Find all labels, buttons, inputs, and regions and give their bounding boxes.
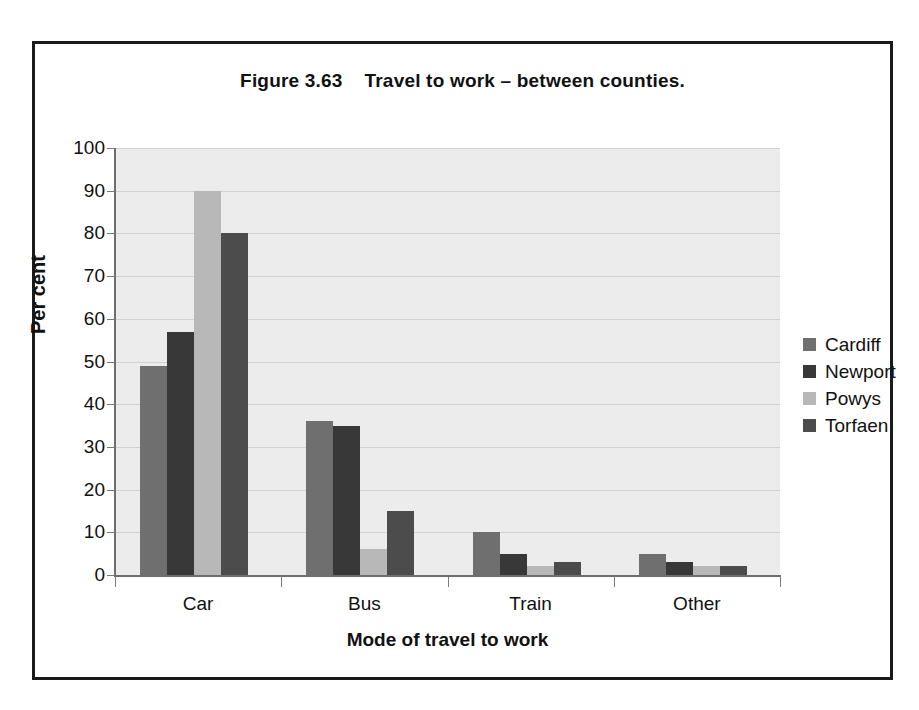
y-axis-tick [107,532,115,533]
chart-legend: CardiffNewportPowysTorfaen [803,331,896,439]
legend-label: Powys [825,388,881,410]
bar [140,366,167,575]
y-axis-tick [107,191,115,192]
bar [666,562,693,575]
gridline [115,148,780,149]
bar [167,332,194,575]
x-axis-category-label: Bus [348,593,381,615]
x-axis-category-label: Other [673,593,721,615]
chart-title: Figure 3.63 Travel to work – between cou… [35,70,890,92]
y-axis-tick [107,404,115,405]
x-axis-category-label: Train [509,593,552,615]
legend-swatch-icon [803,365,816,378]
y-axis-tick-label: 60 [35,308,105,330]
bar [333,426,360,575]
bar [639,554,666,575]
bar [693,566,720,575]
y-axis-tick [107,148,115,149]
legend-item-cardiff[interactable]: Cardiff [803,331,896,358]
plot-area [115,148,780,575]
x-axis-title: Mode of travel to work [115,629,780,651]
y-axis-tick [107,233,115,234]
y-axis-tick-label: 30 [35,436,105,458]
y-axis-tick [107,319,115,320]
x-axis-category-label: Car [183,593,214,615]
legend-item-powys[interactable]: Powys [803,385,896,412]
legend-label: Torfaen [825,415,888,437]
bar [194,191,221,575]
legend-swatch-icon [803,419,816,432]
bar [360,549,387,575]
bar [500,554,527,575]
bar [387,511,414,575]
y-axis-tick-label: 80 [35,222,105,244]
legend-swatch-icon [803,392,816,405]
bar [720,566,747,575]
y-axis-tick [107,575,115,576]
legend-label: Cardiff [825,334,881,356]
bar [473,532,500,575]
y-axis-tick-label: 90 [35,180,105,202]
y-axis-tick [107,490,115,491]
legend-label: Newport [825,361,896,383]
y-axis-tick-label: 50 [35,351,105,373]
y-axis-tick [107,276,115,277]
y-axis-tick-label: 10 [35,521,105,543]
y-axis-tick-label: 100 [35,137,105,159]
x-axis-tick [448,577,449,587]
x-axis-tick [281,577,282,587]
x-axis-tick [614,577,615,587]
legend-item-torfaen[interactable]: Torfaen [803,412,896,439]
figure-frame: Figure 3.63 Travel to work – between cou… [32,41,893,680]
x-axis-tick [115,577,116,587]
bar [554,562,581,575]
y-axis-tick [107,362,115,363]
y-axis-tick-label: 40 [35,393,105,415]
y-axis-tick-label: 20 [35,479,105,501]
y-axis-line [114,148,116,577]
bar [306,421,333,575]
bar [221,233,248,575]
y-axis-tick [107,447,115,448]
legend-swatch-icon [803,338,816,351]
legend-item-newport[interactable]: Newport [803,358,896,385]
bar [527,566,554,575]
y-axis-tick-label: 0 [35,564,105,586]
x-axis-tick [780,577,781,587]
y-axis-tick-label: 70 [35,265,105,287]
